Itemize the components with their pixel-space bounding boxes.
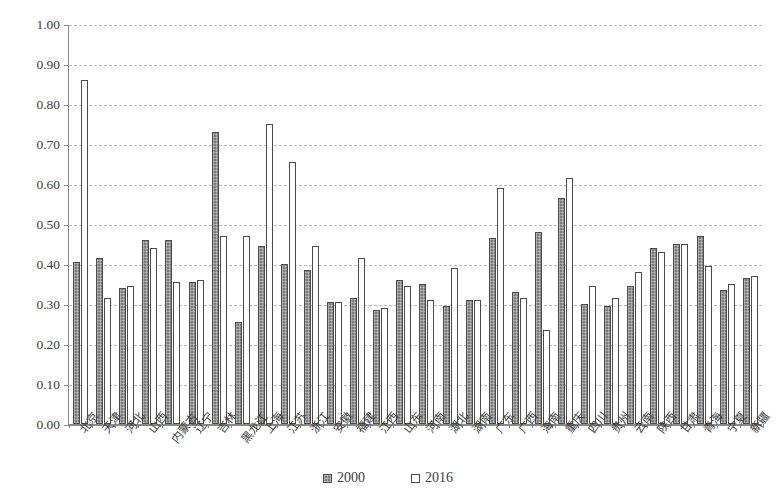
bars-layer <box>69 25 762 424</box>
bar-2000 <box>743 278 750 424</box>
legend-label: 2000 <box>337 470 365 486</box>
bar-group <box>693 25 716 424</box>
bar-group <box>554 25 577 424</box>
bar-2016 <box>150 248 157 424</box>
bar-2000 <box>396 280 403 424</box>
bar-chart: 1.000.900.800.700.600.500.400.300.200.10… <box>0 0 776 501</box>
bar-group <box>415 25 438 424</box>
y-axis-tick-label: 0.60 <box>8 178 60 192</box>
bar-group <box>208 25 231 424</box>
bar-group <box>508 25 531 424</box>
y-axis-tick-label: 0.90 <box>8 58 60 72</box>
legend-swatch-icon <box>323 474 332 483</box>
bar-2016 <box>381 308 388 424</box>
bar-2016 <box>335 302 342 424</box>
bar-2016 <box>497 188 504 424</box>
bar-2000 <box>165 240 172 424</box>
bar-2000 <box>535 232 542 424</box>
bar-group <box>392 25 415 424</box>
bar-group <box>323 25 346 424</box>
bar-2000 <box>327 302 334 424</box>
bar-2016 <box>705 266 712 424</box>
bar-group <box>485 25 508 424</box>
bar-group <box>346 25 369 424</box>
bar-group <box>231 25 254 424</box>
bar-2000 <box>720 290 727 424</box>
bar-group <box>716 25 739 424</box>
bar-2016 <box>289 162 296 424</box>
y-axis-tick-label: 0.50 <box>8 218 60 232</box>
y-axis-tick-label: 0.20 <box>8 338 60 352</box>
bar-2000 <box>581 304 588 424</box>
bar-2000 <box>443 306 450 424</box>
bar-2000 <box>350 298 357 424</box>
bar-2016 <box>266 124 273 424</box>
bar-2016 <box>427 300 434 424</box>
y-axis-tick-label: 0.00 <box>8 418 60 432</box>
bar-2000 <box>119 288 126 424</box>
bar-group <box>623 25 646 424</box>
plot-area <box>68 25 762 425</box>
bar-2016 <box>681 244 688 424</box>
bar-group <box>277 25 300 424</box>
bar-2016 <box>612 298 619 424</box>
bar-group <box>300 25 323 424</box>
bar-group <box>462 25 485 424</box>
bar-2016 <box>127 286 134 424</box>
bar-2000 <box>558 198 565 424</box>
bar-group <box>439 25 462 424</box>
y-axis-tick-label: 0.30 <box>8 298 60 312</box>
bar-group <box>669 25 692 424</box>
y-axis-tick-label: 0.10 <box>8 378 60 392</box>
bar-2016 <box>751 276 758 424</box>
bar-group <box>600 25 623 424</box>
bar-2016 <box>520 298 527 424</box>
bar-2000 <box>466 300 473 424</box>
bar-2016 <box>220 236 227 424</box>
legend-item-2000[interactable]: 2000 <box>323 470 365 486</box>
bar-group <box>739 25 762 424</box>
bar-group <box>254 25 277 424</box>
bar-2016 <box>404 286 411 424</box>
bar-2016 <box>658 252 665 424</box>
chart-legend: 20002016 <box>0 470 776 486</box>
bar-2000 <box>304 270 311 424</box>
bar-2016 <box>104 298 111 424</box>
bar-2016 <box>197 280 204 424</box>
bar-group <box>161 25 184 424</box>
bar-group <box>577 25 600 424</box>
bar-group <box>646 25 669 424</box>
bar-2016 <box>243 236 250 424</box>
bar-2016 <box>543 330 550 424</box>
bar-2000 <box>281 264 288 424</box>
bar-group <box>531 25 554 424</box>
bar-group <box>92 25 115 424</box>
bar-2000 <box>373 310 380 424</box>
bar-2000 <box>673 244 680 424</box>
bar-group <box>369 25 392 424</box>
bar-2000 <box>96 258 103 424</box>
y-axis-tick-label: 1.00 <box>8 18 60 32</box>
bar-2000 <box>512 292 519 424</box>
bar-2000 <box>142 240 149 424</box>
bar-group <box>138 25 161 424</box>
legend-item-2016[interactable]: 2016 <box>411 470 453 486</box>
y-axis-tick-label: 0.80 <box>8 98 60 112</box>
bar-2000 <box>235 322 242 424</box>
bar-2016 <box>358 258 365 424</box>
bar-2000 <box>73 262 80 424</box>
bar-2000 <box>697 236 704 424</box>
bar-2016 <box>728 284 735 424</box>
bar-group <box>184 25 207 424</box>
bar-2016 <box>312 246 319 424</box>
bar-2016 <box>474 300 481 424</box>
bar-2016 <box>81 80 88 424</box>
y-axis-tick-label: 0.70 <box>8 138 60 152</box>
bar-2016 <box>566 178 573 424</box>
bar-2016 <box>173 282 180 424</box>
bar-2016 <box>589 286 596 424</box>
bar-2016 <box>635 272 642 424</box>
bar-group <box>69 25 92 424</box>
legend-label: 2016 <box>425 470 453 486</box>
bar-2000 <box>627 286 634 424</box>
